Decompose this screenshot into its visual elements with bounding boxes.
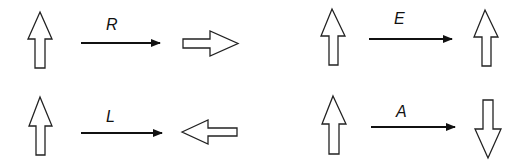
operation-label-e: E — [394, 11, 405, 27]
up-arrow-icon — [29, 97, 52, 155]
right-arrow-icon — [183, 31, 238, 56]
up-arrow-icon — [321, 9, 345, 65]
operation-label-l: L — [106, 109, 115, 125]
down-arrow-icon — [475, 100, 501, 158]
operation-label-r: R — [106, 17, 118, 33]
operation-label-a: A — [396, 104, 407, 120]
up-arrow-icon — [28, 12, 52, 68]
left-arrow-icon — [182, 120, 237, 144]
up-arrow-icon — [474, 10, 498, 66]
diagram-canvas — [0, 0, 525, 163]
up-arrow-icon — [322, 96, 346, 154]
